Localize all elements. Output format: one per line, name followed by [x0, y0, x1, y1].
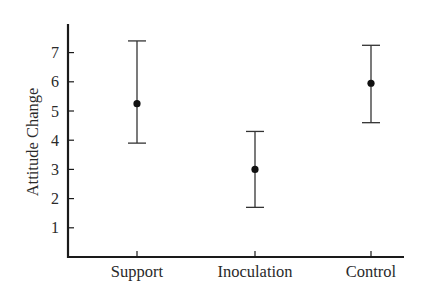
y-tick-label: 5: [51, 103, 59, 120]
y-axis-title-group: Attitude Change: [23, 88, 42, 197]
mean-point-marker: [367, 80, 374, 87]
y-tick-label: 1: [51, 219, 59, 236]
y-tick-label: 4: [51, 132, 59, 149]
data-points: [128, 41, 380, 207]
y-tick-label: 2: [51, 190, 59, 207]
mean-point-marker: [251, 166, 258, 173]
y-tick-label: 7: [51, 44, 59, 61]
error-bar-group-support: [128, 41, 146, 143]
axes: [67, 24, 404, 258]
error-bar-group-inoculation: [246, 131, 264, 207]
mean-point-marker: [133, 100, 140, 107]
y-tick-label: 3: [51, 161, 59, 178]
x-tick-label-inoculation: Inoculation: [217, 262, 292, 281]
y-axis-title: Attitude Change: [23, 88, 42, 197]
error-bar-group-control: [362, 45, 380, 122]
x-tick-label-control: Control: [346, 262, 397, 281]
x-ticks: SupportInoculationControl: [111, 251, 397, 281]
y-tick-label: 6: [51, 73, 59, 90]
y-ticks: 1234567: [51, 44, 74, 236]
chart: Attitude Change 1234567 SupportInoculati…: [0, 0, 423, 296]
x-tick-label-support: Support: [111, 262, 164, 281]
